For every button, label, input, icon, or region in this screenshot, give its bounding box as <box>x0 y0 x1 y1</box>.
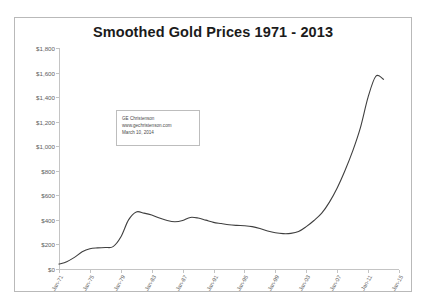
y-tick-label: $1,400 <box>36 94 55 101</box>
x-tick-mark <box>90 270 91 273</box>
x-tick-label: Jan-03 <box>298 274 312 292</box>
annotation-website: www.gechristenson.com <box>122 122 194 129</box>
y-tick-label: $1,800 <box>36 45 55 52</box>
x-tick-label: Jan-91 <box>205 274 219 292</box>
plot-area <box>59 48 399 269</box>
x-tick-label: Jan-71 <box>50 274 64 292</box>
x-tick-label: Jan-83 <box>143 274 157 292</box>
x-tick-mark <box>399 270 400 273</box>
x-tick-mark <box>152 270 153 273</box>
x-tick-mark <box>244 270 245 273</box>
x-tick-mark <box>306 270 307 273</box>
annotation-textbox: GE Christenson www.gechristenson.com Mar… <box>116 110 200 146</box>
x-axis-labels: Jan-71Jan-75Jan-79Jan-83Jan-87Jan-91Jan-… <box>59 270 399 305</box>
x-tick-mark <box>214 270 215 273</box>
x-tick-mark <box>183 270 184 273</box>
y-tick-mark <box>56 220 59 221</box>
x-tick-mark <box>59 270 60 273</box>
y-tick-mark <box>56 171 59 172</box>
y-tick-mark <box>56 122 59 123</box>
annotation-date: March 10, 2014 <box>122 129 194 136</box>
y-axis-labels: $0$200$400$600$800$1,000$1,200$1,400$1,6… <box>15 48 55 269</box>
y-tick-mark <box>56 73 59 74</box>
x-tick-mark <box>337 270 338 273</box>
chart-container: Smoothed Gold Prices 1971 - 2013 $0$200$… <box>14 17 412 292</box>
y-tick-label: $200 <box>41 241 55 248</box>
y-tick-mark <box>56 146 59 147</box>
y-tick-label: $400 <box>41 216 55 223</box>
x-tick-label: Jan-75 <box>81 274 95 292</box>
y-tick-mark <box>56 97 59 98</box>
chart-title: Smoothed Gold Prices 1971 - 2013 <box>15 24 411 40</box>
x-tick-label: Jan-15 <box>390 274 404 292</box>
y-tick-mark <box>56 195 59 196</box>
y-tick-label: $1,600 <box>36 69 55 76</box>
y-tick-label: $600 <box>41 192 55 199</box>
gold-price-line-path <box>59 75 384 264</box>
x-tick-mark <box>368 270 369 273</box>
x-tick-label: Jan-99 <box>267 274 281 292</box>
x-tick-label: Jan-11 <box>360 274 374 291</box>
y-tick-label: $0 <box>48 266 55 273</box>
x-tick-mark <box>275 270 276 273</box>
y-tick-label: $800 <box>41 167 55 174</box>
y-tick-mark <box>56 244 59 245</box>
x-tick-label: Jan-95 <box>236 274 250 292</box>
x-tick-label: Jan-79 <box>112 274 126 292</box>
x-tick-label: Jan-07 <box>329 274 343 292</box>
y-tick-label: $1,200 <box>36 118 55 125</box>
x-tick-mark <box>121 270 122 273</box>
gold-price-line-series <box>59 48 399 269</box>
y-tick-mark <box>56 269 59 270</box>
y-tick-mark <box>56 48 59 49</box>
x-tick-label: Jan-87 <box>174 274 188 292</box>
annotation-author: GE Christenson <box>122 115 194 122</box>
y-tick-label: $1,000 <box>36 143 55 150</box>
